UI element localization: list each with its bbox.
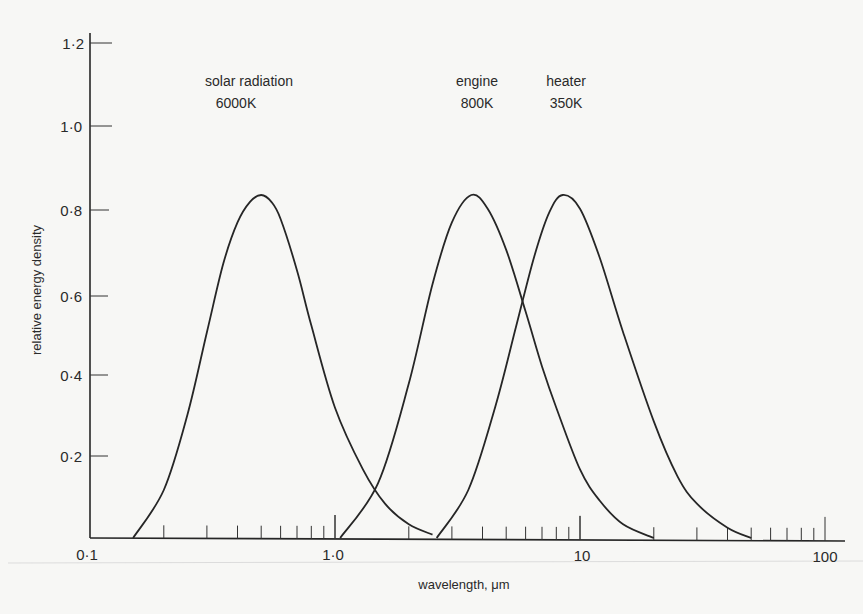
page-fold-line — [8, 561, 863, 563]
engine-label: engine — [456, 73, 498, 89]
y-tick-label: 1·0 — [60, 118, 82, 135]
heater-label: heater — [546, 73, 586, 89]
solar-radiation-label: solar radiation — [205, 73, 293, 89]
y-tick-label: 0·4 — [60, 367, 82, 384]
x-axis — [90, 515, 845, 541]
y-tick-label: 1·2 — [62, 35, 84, 52]
solar-radiation-curve — [133, 195, 432, 538]
y-axis-title: relative energy density — [29, 224, 44, 355]
x-minor-ticks — [164, 515, 825, 541]
engine-curve — [340, 195, 654, 538]
y-tick-label: 0·8 — [60, 202, 82, 219]
solar-radiation-temp-label: 6000K — [216, 95, 257, 111]
y-tick-label: 0·2 — [60, 448, 82, 465]
heater-temp-label: 350K — [550, 95, 583, 111]
x-tick-label: 1·0 — [322, 546, 344, 563]
x-tick-label: 100 — [812, 548, 837, 565]
heater-curve — [437, 195, 752, 538]
blackbody-spectrum-chart: 1·2 1·0 0·8 0·6 0·4 0·2 0·1 1·0 10 100 w… — [0, 0, 863, 614]
y-axis — [90, 33, 112, 538]
x-tick-label: 10 — [574, 547, 591, 564]
y-tick-label: 0·6 — [60, 288, 82, 305]
engine-temp-label: 800K — [461, 95, 494, 111]
x-axis-title: wavelength, μm — [417, 577, 509, 592]
x-tick-label: 0·1 — [76, 546, 98, 563]
